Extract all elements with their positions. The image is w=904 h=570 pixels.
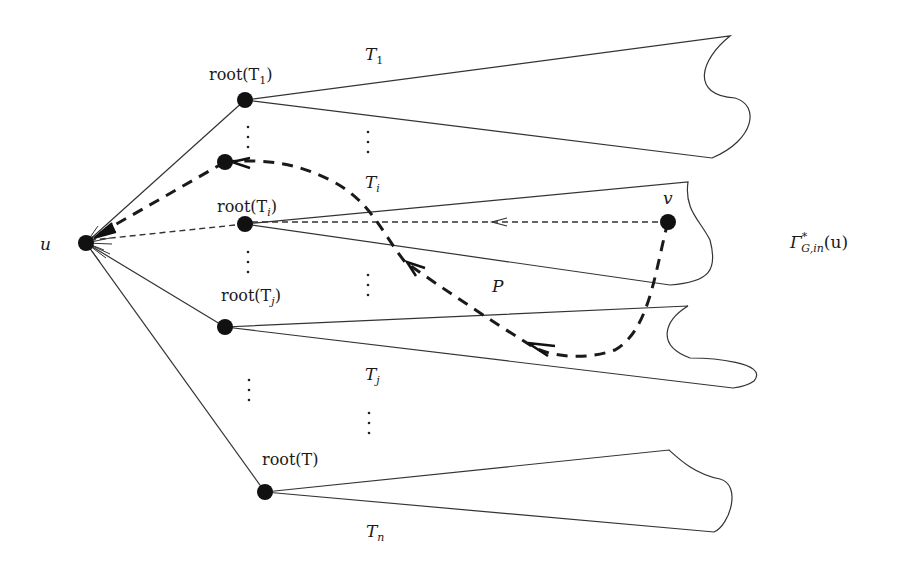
node-root-Ti — [237, 216, 253, 232]
label-tree-Ti: Ti — [365, 172, 380, 195]
node-u — [78, 235, 94, 251]
label-root-T: root(T) — [262, 450, 319, 469]
path-P-arrow-3 — [232, 158, 250, 168]
label-region-gamma: Γ*G,in(u) — [789, 230, 848, 255]
diagram-svg: u v root(T1) root(Ti) root(Tj) root(T) T… — [0, 0, 904, 570]
node-root-T1 — [237, 92, 253, 108]
label-root-Tj: root(Tj) — [221, 286, 281, 308]
edge-root-T-to-u — [86, 243, 265, 492]
node-v — [660, 214, 676, 230]
label-root-Ti: root(Ti) — [217, 197, 277, 219]
tree-Tn-shape — [265, 450, 732, 532]
label-tree-T1: T1 — [365, 44, 383, 67]
label-tree-Tj: Tj — [365, 364, 380, 387]
edge-root-T1-to-u — [86, 100, 245, 243]
label-path-P: P — [491, 276, 504, 296]
tree-Ti-shape — [245, 182, 713, 285]
node-root-Tj — [217, 319, 233, 335]
label-tree-Tn: Tn — [366, 521, 384, 544]
edge-root-Tj-to-u — [86, 243, 225, 327]
tree-Tj-shape — [225, 306, 757, 388]
tree-T1-shape — [245, 36, 750, 158]
diagram-canvas: u v root(T1) root(Ti) root(Tj) root(T) T… — [0, 0, 904, 570]
label-root-T1: root(T1) — [209, 65, 273, 87]
node-path-end — [217, 154, 233, 170]
label-v: v — [663, 188, 673, 208]
node-root-T — [257, 484, 273, 500]
label-u: u — [40, 234, 51, 254]
